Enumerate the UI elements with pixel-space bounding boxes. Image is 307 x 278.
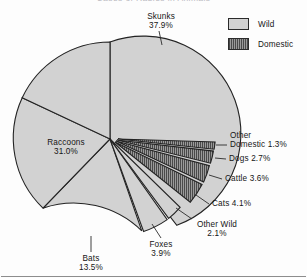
slice-label-other-wild-pct: 2.1% xyxy=(186,229,248,238)
slice-label-raccoons-name: Raccoons xyxy=(33,138,99,147)
slice-label-foxes: Foxes 3.9% xyxy=(136,240,186,259)
slice-label-other-wild: Other Wild 2.1% xyxy=(186,220,248,239)
slice-label-other-domestic-value: Domestic 1.3% xyxy=(230,140,287,149)
slice-label-bats-pct: 13.5% xyxy=(62,263,120,272)
slice-label-skunks: Skunks 37.9% xyxy=(131,12,191,31)
figure-bottom-rule xyxy=(1,276,306,277)
slice-label-skunks-pct: 37.9% xyxy=(131,21,191,30)
slice-label-raccoons-pct: 31.0% xyxy=(33,147,99,156)
chart-page: Cases of Rabies in Animals xyxy=(0,0,307,278)
legend-label-wild: Wild xyxy=(258,20,275,29)
slice-label-dogs: Dogs 2.7% xyxy=(229,154,270,163)
slice-label-raccoons: Raccoons 31.0% xyxy=(33,138,99,157)
legend-swatch-domestic-icon xyxy=(228,38,249,50)
slice-label-bats: Bats 13.5% xyxy=(62,254,120,273)
slice-label-other-domestic-name: Other xyxy=(230,131,287,140)
slice-label-other-domestic: Other Domestic 1.3% xyxy=(230,131,287,150)
slice-label-cattle: Cattle 3.6% xyxy=(225,174,269,183)
slice-label-skunks-name: Skunks xyxy=(131,12,191,21)
legend-item-wild: Wild xyxy=(228,18,275,30)
slice-label-foxes-name: Foxes xyxy=(136,240,186,249)
slice-label-bats-name: Bats xyxy=(62,254,120,263)
legend-swatch-wild-icon xyxy=(228,18,249,30)
slice-label-other-wild-name: Other Wild xyxy=(186,220,248,229)
legend-item-domestic: Domestic xyxy=(228,38,293,50)
slice-label-cats: Cats 4.1% xyxy=(212,199,251,208)
slice-label-foxes-pct: 3.9% xyxy=(136,249,186,258)
legend-label-domestic: Domestic xyxy=(258,40,293,49)
